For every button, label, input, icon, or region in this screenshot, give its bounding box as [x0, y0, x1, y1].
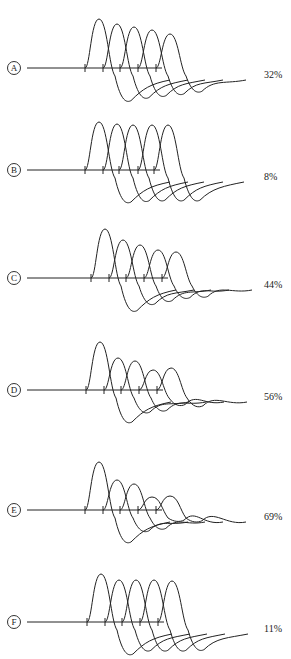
- percentage-value: 44%: [264, 279, 282, 290]
- waveform-plot: [0, 330, 291, 440]
- waveform-trace: [120, 484, 205, 529]
- waveform-plot: [0, 110, 291, 220]
- panel-b: B8%: [0, 110, 291, 220]
- waveform-trace: [158, 581, 248, 650]
- waveform-figure: A32%B8%C44%D56%E69%F11%: [0, 0, 291, 659]
- waveform-plot: [0, 0, 291, 110]
- percentage-value: 32%: [264, 69, 282, 80]
- waveform-trace: [120, 27, 205, 96]
- percentage-value: 11%: [264, 623, 282, 634]
- waveform-trace: [157, 368, 247, 407]
- panel-a: A32%: [0, 0, 291, 110]
- panel-c: C44%: [0, 220, 291, 330]
- waveform-plot: [0, 220, 291, 330]
- waveform-trace: [138, 125, 223, 201]
- percentage-value: 56%: [264, 391, 282, 402]
- panel-e: E69%: [0, 440, 291, 550]
- waveform-plot: [0, 549, 291, 659]
- panel-d: D56%: [0, 330, 291, 440]
- waveform-trace: [154, 125, 244, 201]
- panel-f: F11%: [0, 549, 291, 659]
- percentage-value: 8%: [264, 171, 277, 182]
- waveform-trace: [85, 19, 170, 101]
- waveform-plot: [0, 440, 291, 550]
- percentage-value: 69%: [264, 511, 282, 522]
- waveform-trace: [126, 245, 211, 302]
